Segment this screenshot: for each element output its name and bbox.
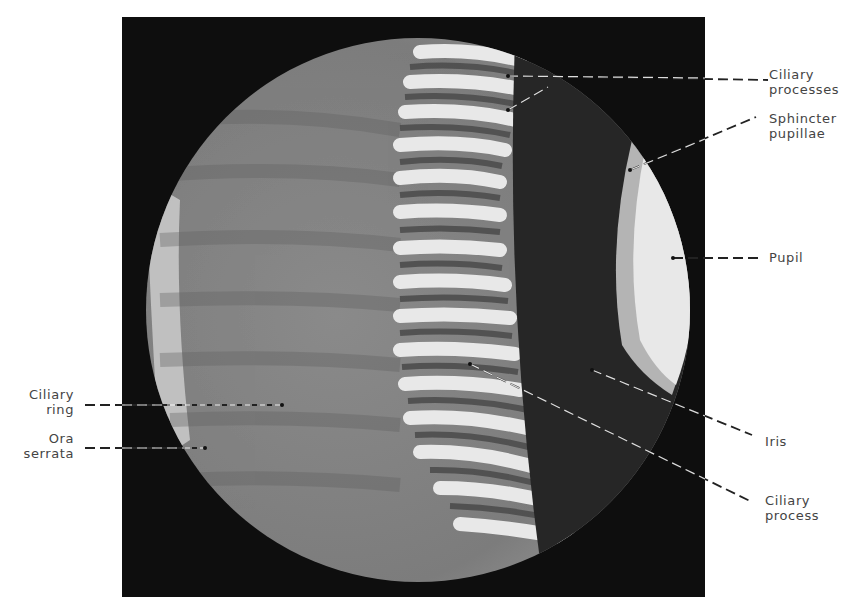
- label-line: ring: [10, 402, 74, 417]
- label-line: Iris: [765, 434, 787, 449]
- label-line: Ciliary: [10, 387, 74, 402]
- eye-photograph: [0, 0, 851, 612]
- label-sphincter-pupillae: Sphincter pupillae: [769, 111, 837, 141]
- label-ciliary-processes: Ciliary processes: [769, 67, 839, 97]
- label-line: process: [765, 508, 819, 523]
- label-pupil: Pupil: [769, 250, 803, 265]
- label-ciliary-process: Ciliary process: [765, 493, 819, 523]
- label-line: Ciliary: [769, 67, 839, 82]
- label-line: Sphincter: [769, 111, 837, 126]
- label-line: processes: [769, 82, 839, 97]
- label-line: pupillae: [769, 126, 837, 141]
- label-line: Pupil: [769, 250, 803, 265]
- label-line: Ora: [10, 431, 74, 446]
- label-line: serrata: [10, 446, 74, 461]
- label-line: Ciliary: [765, 493, 819, 508]
- eye-disc: [140, 30, 720, 600]
- label-ora-serrata: Ora serrata: [10, 431, 74, 461]
- label-iris: Iris: [765, 434, 787, 449]
- label-ciliary-ring: Ciliary ring: [10, 387, 74, 417]
